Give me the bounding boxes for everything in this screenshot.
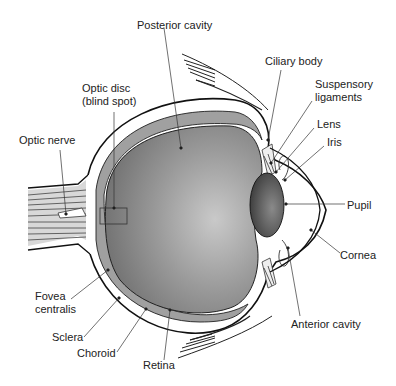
label-suspensory-ligaments-line2: ligaments: [315, 91, 362, 104]
lens: [250, 173, 284, 237]
optic-nerve: [28, 175, 90, 254]
label-optic-disc-line2: (blind spot): [82, 95, 136, 108]
label-iris: Iris: [327, 136, 342, 149]
eye-diagram: Posterior cavity Ciliary body Suspensory…: [0, 0, 396, 386]
label-sclera: Sclera: [52, 331, 83, 344]
label-suspensory-ligaments-line1: Suspensory: [315, 78, 373, 91]
label-optic-nerve: Optic nerve: [19, 134, 75, 147]
label-optic-disc-line1: Optic disc: [82, 82, 130, 95]
posterior-cavity: [105, 126, 262, 313]
label-cornea: Cornea: [340, 249, 376, 262]
label-ciliary-body: Ciliary body: [265, 55, 322, 68]
label-lens: Lens: [317, 118, 341, 131]
label-pupil: Pupil: [347, 199, 371, 212]
label-fovea-line1: Fovea: [35, 290, 66, 303]
label-fovea-line2: centralis: [35, 303, 76, 316]
label-retina: Retina: [143, 359, 175, 372]
label-posterior-cavity: Posterior cavity: [137, 19, 212, 32]
label-anterior-cavity: Anterior cavity: [291, 318, 361, 331]
label-choroid: Choroid: [77, 347, 116, 360]
